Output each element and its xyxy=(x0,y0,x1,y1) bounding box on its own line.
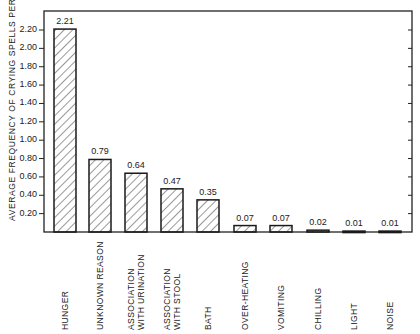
x-category-label: NOISE xyxy=(385,302,395,330)
bar-value-label: 0.79 xyxy=(80,146,120,156)
y-tick-label: 1.60 xyxy=(3,79,37,89)
bar-value-label: 0.01 xyxy=(370,218,410,228)
bar xyxy=(270,226,292,232)
x-category-label: UNKNOWN REASON xyxy=(95,241,105,330)
bar xyxy=(161,189,183,232)
y-tick-label: 0.40 xyxy=(3,189,37,199)
bar-value-label: 0.07 xyxy=(261,213,301,223)
y-tick-label: 0.80 xyxy=(3,153,37,163)
x-category-label: HUNGER xyxy=(60,291,70,330)
y-tick-label: 0.60 xyxy=(3,171,37,181)
x-category-label: CHILLING xyxy=(313,288,323,330)
x-category-label: VOMITING xyxy=(276,285,286,330)
y-tick-label: 1.00 xyxy=(3,134,37,144)
y-tick-label: 1.80 xyxy=(3,61,37,71)
x-category-label: LIGHT xyxy=(349,303,359,330)
bar xyxy=(343,231,365,233)
x-category-label: OVER-HEATING xyxy=(240,261,250,330)
bar xyxy=(379,231,401,233)
y-tick-label: 0.20 xyxy=(3,208,37,218)
bar-value-label: 2.21 xyxy=(45,16,85,26)
bar-value-label: 0.64 xyxy=(116,160,156,170)
bar-value-label: 0.07 xyxy=(225,213,265,223)
bar xyxy=(89,159,111,232)
bar-chart: AVERAGE FREQUENCY OF CRYING SPELLS PER D… xyxy=(0,0,420,334)
bar-value-label: 0.47 xyxy=(152,176,192,186)
x-category-label: ASSOCIATIONWITH URINATION xyxy=(126,254,146,330)
bar xyxy=(54,29,76,232)
bar xyxy=(307,230,329,232)
bar xyxy=(125,173,147,232)
bar xyxy=(197,200,219,232)
bar-value-label: 0.01 xyxy=(334,218,374,228)
bar-value-label: 0.35 xyxy=(188,187,228,197)
y-tick-label: 2.20 xyxy=(3,24,37,34)
x-category-label: ASSOCIATIONWITH STOOL xyxy=(162,268,182,330)
x-category-label: BATH xyxy=(203,306,213,330)
bar xyxy=(234,226,256,232)
bar-value-label: 0.02 xyxy=(298,217,338,227)
plot-area xyxy=(0,0,420,334)
y-tick-label: 2.00 xyxy=(3,42,37,52)
y-tick-label: 1.40 xyxy=(3,97,37,107)
y-tick-label: 1.20 xyxy=(3,116,37,126)
bars xyxy=(54,29,401,233)
